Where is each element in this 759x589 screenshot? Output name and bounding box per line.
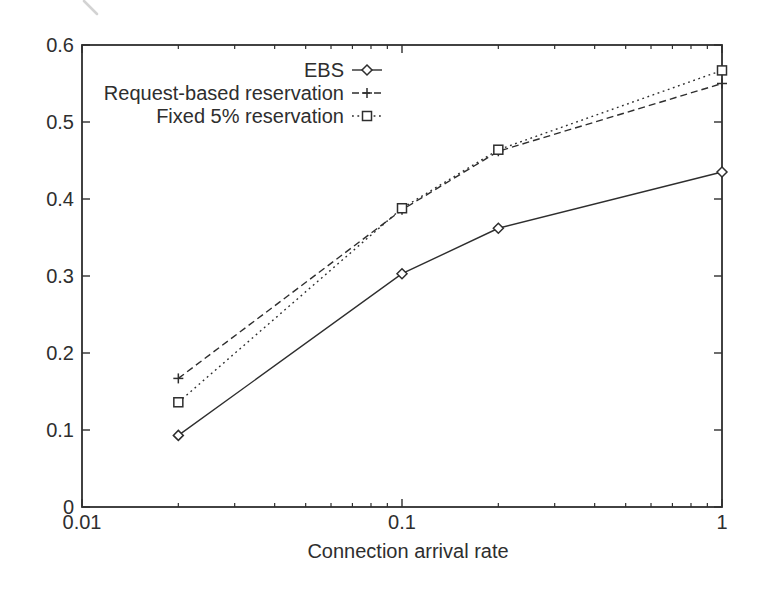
y-tick-label: 0.5 [46, 111, 74, 133]
x-axis-title: Connection arrival rate [307, 540, 508, 562]
marker-square [494, 145, 503, 154]
y-tick-label: 0.1 [46, 419, 74, 441]
connection-arrival-rate-chart: 0.010.1100.10.20.30.40.50.6 Connection a… [0, 0, 759, 589]
x-tick-label: 0.1 [388, 511, 416, 533]
y-tick-label: 0.2 [46, 342, 74, 364]
legend-sample-marker-diamond [362, 65, 372, 75]
chart-canvas: 0.010.1100.10.20.30.40.50.6 Connection a… [0, 0, 759, 589]
marker-diamond [397, 269, 407, 279]
legend-label-request-based-reservation: Request-based reservation [104, 82, 344, 104]
axes-group: 0.010.1100.10.20.30.40.50.6 [46, 1, 727, 533]
marker-square [174, 398, 183, 407]
y-tick-label: 0.6 [46, 34, 74, 56]
legend-label-fixed-5pct-reservation: Fixed 5% reservation [156, 105, 344, 127]
legend-sample-marker-square [363, 112, 372, 121]
marker-diamond [717, 167, 727, 177]
y-tick-label: 0 [63, 496, 74, 518]
legend-samples-group [352, 65, 382, 121]
marker-diamond [173, 430, 183, 440]
marker-square [718, 66, 727, 75]
x-tick-label: 1 [716, 511, 727, 533]
marker-square [398, 204, 407, 213]
series-line-0 [178, 172, 722, 435]
marker-diamond [493, 223, 503, 233]
legend-label-ebs: EBS [304, 59, 344, 81]
y-tick-label: 0.3 [46, 265, 74, 287]
scan-artifact [84, 1, 97, 14]
series-line-1 [178, 84, 722, 379]
y-tick-label: 0.4 [46, 188, 74, 210]
